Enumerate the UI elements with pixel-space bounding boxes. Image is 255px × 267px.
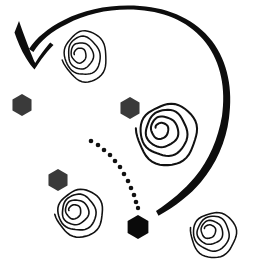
dot-marker — [136, 206, 140, 210]
dot-marker — [118, 165, 123, 170]
dot-marker — [102, 148, 107, 153]
dot-marker — [134, 200, 139, 205]
dot-marker — [126, 179, 131, 184]
dot-marker — [96, 143, 101, 148]
dot-marker — [132, 193, 137, 198]
figure-canvas — [0, 0, 255, 267]
dot-marker — [122, 172, 127, 177]
dot-marker — [89, 139, 94, 144]
spiral-hexagon-figure — [0, 0, 255, 267]
dot-marker — [129, 186, 134, 191]
dot-marker — [113, 159, 118, 164]
dot-marker — [108, 153, 113, 158]
